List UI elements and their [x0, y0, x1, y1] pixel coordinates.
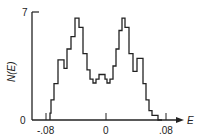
histogram-steps [50, 18, 162, 120]
x-tick-label-pos08: .08 [159, 125, 173, 136]
histogram-chart: 7 0 N(E) -.08 0 .08 E [0, 0, 200, 137]
y-tick-label-7: 7 [22, 7, 28, 18]
x-axis-label: E [187, 115, 194, 126]
y-axis-label: N(E) [6, 61, 17, 82]
y-tick-label-0: 0 [20, 115, 26, 126]
x-tick-label-neg08: -.08 [37, 125, 55, 136]
x-tick-label-0: 0 [103, 125, 109, 136]
x-axis-arrow-icon [176, 117, 184, 123]
